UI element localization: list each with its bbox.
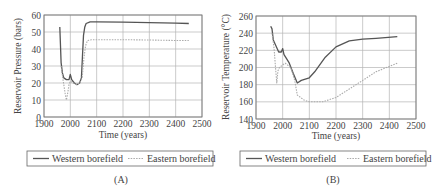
x-axis-label-a: Time (years) xyxy=(99,130,147,141)
y-tick-label: 40 xyxy=(32,45,42,55)
grid-b xyxy=(256,16,416,119)
y-tick-label: 60 xyxy=(32,11,42,21)
x-tick-label: 2300 xyxy=(353,121,372,131)
grid-a xyxy=(44,15,202,117)
y-tick-label: 220 xyxy=(239,46,254,56)
figure: 0102030405060 19002000210022002300240025… xyxy=(0,0,444,194)
x-ticks-a: 1900200021002200230024002500 xyxy=(35,119,212,129)
y-tick-label: 260 xyxy=(239,12,254,22)
y-tick-label: 160 xyxy=(239,97,254,107)
x-axis-label-b: Time (years) xyxy=(312,131,360,142)
y-tick-label: 50 xyxy=(32,28,42,38)
y-axis-label-a: Reservoir Pressure (bars) xyxy=(13,18,24,114)
x-ticks-b: 1900200021002200230024002500 xyxy=(247,121,426,131)
y-ticks-b: 140160180200220240260 xyxy=(239,12,254,125)
x-tick-label: 2500 xyxy=(407,121,426,131)
x-tick-label: 2000 xyxy=(61,119,80,129)
y-axis-label-b: Reservoir Temperature (°C) xyxy=(221,14,232,120)
legend-b: Western borefield Eastern borefield xyxy=(240,151,432,166)
western-borefield-line xyxy=(271,26,398,83)
x-tick-label: 2100 xyxy=(300,121,319,131)
x-tick-label: 2200 xyxy=(327,121,346,131)
western-borefield-line xyxy=(60,22,189,85)
y-tick-label: 30 xyxy=(32,62,42,72)
chart-panel-a: 0102030405060 19002000210022002300240025… xyxy=(13,11,216,187)
legend-western-label-a: Western borefield xyxy=(52,153,123,164)
chart-panel-b: 140160180200220240260 190020002100220023… xyxy=(221,12,432,187)
panel-label-b: (B) xyxy=(326,174,339,186)
legend-eastern-label-a: Eastern borefield xyxy=(147,153,216,164)
x-tick-label: 2300 xyxy=(140,119,159,129)
x-tick-label: 2400 xyxy=(380,121,399,131)
y-tick-label: 200 xyxy=(239,63,254,73)
x-tick-label: 2500 xyxy=(193,119,212,129)
legend-a: Western borefield Eastern borefield xyxy=(27,151,216,166)
y-tick-label: 180 xyxy=(239,80,254,90)
panel-label-a: (A) xyxy=(114,174,128,186)
x-tick-label: 1900 xyxy=(35,119,54,129)
series-b xyxy=(271,26,398,102)
x-tick-label: 2400 xyxy=(166,119,185,129)
y-tick-label: 10 xyxy=(32,96,42,106)
y-ticks-a: 0102030405060 xyxy=(32,11,42,123)
y-tick-label: 240 xyxy=(239,29,254,39)
x-tick-label: 2000 xyxy=(273,121,292,131)
series-a xyxy=(60,22,189,100)
legend-eastern-label-b: Eastern borefield xyxy=(363,153,432,164)
y-tick-label: 20 xyxy=(32,79,42,89)
legend-western-label-b: Western borefield xyxy=(265,153,336,164)
x-tick-label: 2100 xyxy=(87,119,106,129)
x-tick-label: 1900 xyxy=(247,121,266,131)
x-tick-label: 2200 xyxy=(114,119,133,129)
